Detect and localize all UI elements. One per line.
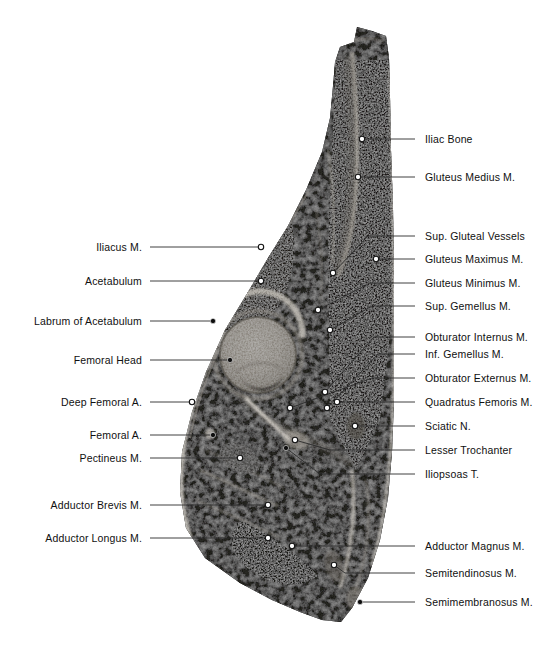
label-sciatic-n[interactable]: Sciatic N.: [425, 421, 471, 432]
specimen-image: [0, 0, 560, 656]
label-lesser-trochanter[interactable]: Lesser Trochanter: [425, 445, 512, 456]
label-iliac-bone[interactable]: Iliac Bone: [425, 134, 473, 145]
label-inf-gemellus-m[interactable]: Inf. Gemellus M.: [425, 349, 504, 360]
label-gluteus-maximus-m[interactable]: Gluteus Maximus M.: [425, 254, 523, 265]
label-sup-gluteal-vessels[interactable]: Sup. Gluteal Vessels: [425, 231, 525, 242]
label-semimembranosus-m[interactable]: Semimembranosus M.: [425, 597, 533, 608]
label-obturator-internus-m[interactable]: Obturator Internus M.: [425, 332, 528, 343]
label-iliacus-m[interactable]: Iliacus M.: [96, 242, 142, 253]
label-deep-femoral-a[interactable]: Deep Femoral A.: [61, 397, 142, 408]
label-obturator-externus-m[interactable]: Obturator Externus M.: [425, 373, 531, 384]
anatomy-figure: Iliacus M.AcetabulumLabrum of Acetabulum…: [0, 0, 560, 656]
label-adductor-brevis-m[interactable]: Adductor Brevis M.: [51, 500, 142, 511]
label-labrum-of-acetabulum[interactable]: Labrum of Acetabulum: [34, 316, 142, 327]
label-gluteus-medius-m[interactable]: Gluteus Medius M.: [425, 172, 515, 183]
label-adductor-magnus-m[interactable]: Adductor Magnus M.: [425, 541, 525, 552]
label-gluteus-minimus-m[interactable]: Gluteus Minimus M.: [425, 278, 520, 289]
label-sup-gemellus-m[interactable]: Sup. Gemellus M.: [425, 301, 511, 312]
label-iliopsoas-t[interactable]: Iliopsoas T.: [425, 469, 479, 480]
label-acetabulum[interactable]: Acetabulum: [85, 276, 142, 287]
label-quadratus-femoris-m[interactable]: Quadratus Femoris M.: [425, 397, 532, 408]
label-femoral-a[interactable]: Femoral A.: [90, 430, 142, 441]
label-femoral-head[interactable]: Femoral Head: [74, 355, 142, 366]
label-adductor-longus-m[interactable]: Adductor Longus M.: [45, 533, 142, 544]
specimen-body: [150, 20, 410, 640]
label-pectineus-m[interactable]: Pectineus M.: [80, 453, 143, 464]
label-semitendinosus-m[interactable]: Semitendinosus M.: [425, 568, 517, 579]
